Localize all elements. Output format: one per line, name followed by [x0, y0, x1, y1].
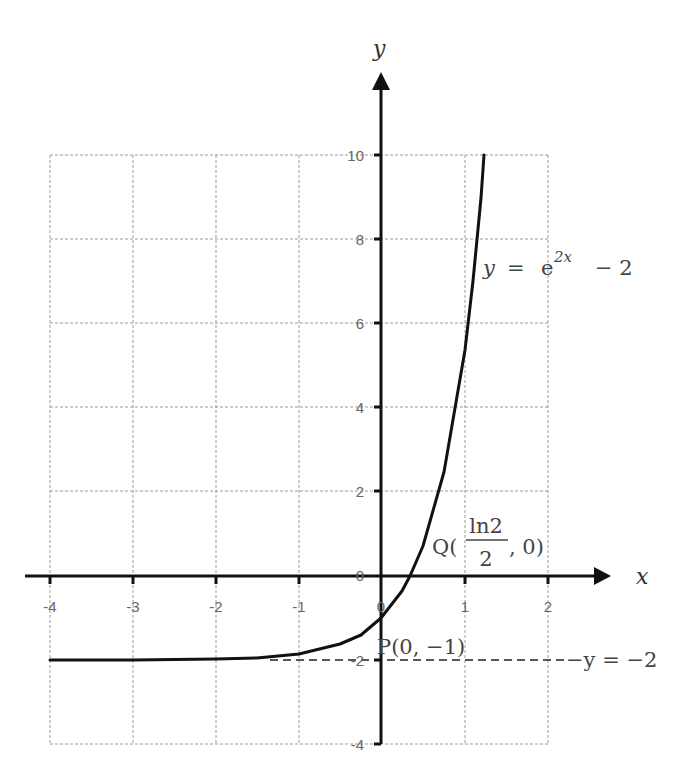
y-tick-label: 2 [356, 483, 364, 500]
x-axis-label: x [636, 564, 649, 589]
x-tick-label: -4 [43, 598, 56, 615]
x-tick-label: -2 [209, 598, 222, 615]
x-tick-label: 2 [544, 598, 552, 615]
y-tick-label: 0 [356, 567, 364, 584]
point-q-suffix: , 0) [509, 535, 544, 559]
equation-base: e [541, 256, 553, 280]
grid [50, 155, 548, 744]
point-q-denominator: 2 [479, 547, 492, 571]
x-tick-labels: -4 -3 -2 -1 0 1 2 [43, 598, 552, 615]
equation-exponent: 2x [553, 248, 573, 266]
x-tick-label: 0 [377, 598, 385, 615]
point-q-numerator: ln2 [469, 514, 503, 538]
x-axis [25, 567, 611, 585]
point-p-label: P(0, −1) [377, 635, 465, 659]
equation-tail: − 2 [595, 256, 633, 280]
asymptote-label: −y = −2 [566, 648, 657, 672]
point-q-label: Q( ln2 2 , 0) [432, 514, 544, 571]
y-tick-label: -4 [351, 736, 364, 753]
y-axis-arrow-icon [372, 72, 390, 90]
equation-equals: = [507, 256, 525, 280]
point-q-prefix: Q( [432, 535, 457, 559]
y-tick-label: -2 [351, 652, 364, 669]
x-tick-label: -1 [292, 598, 305, 615]
curve-equation-label: y = e 2x − 2 [482, 248, 633, 280]
y-tick-label: 4 [356, 399, 364, 416]
y-tick-label: 10 [347, 147, 364, 164]
x-tick-label: 1 [461, 598, 469, 615]
x-axis-arrow-icon [594, 567, 611, 585]
equation-y: y [482, 256, 496, 280]
exponential-graph: -4 -3 -2 -1 0 1 2 10 8 6 4 2 0 -2 -4 y x… [0, 0, 696, 775]
y-axis-label: y [372, 36, 386, 61]
x-tick-label: -3 [126, 598, 139, 615]
y-tick-label: 8 [356, 231, 364, 248]
y-tick-label: 6 [356, 315, 364, 332]
y-tick-labels: 10 8 6 4 2 0 -2 -4 [347, 147, 364, 753]
